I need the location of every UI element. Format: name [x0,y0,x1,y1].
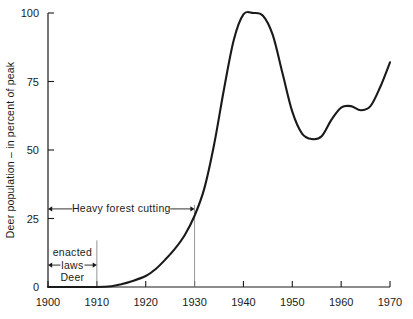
x-tick-label: 1910 [85,296,109,308]
deer-laws-label-line3: enacted [53,246,92,258]
y-tick-label: 75 [27,76,39,88]
deer-laws-label-line1: Deer [60,271,84,283]
y-tick-label: 25 [27,213,39,225]
x-tick-label: 1950 [280,296,304,308]
axes-group [48,13,390,287]
series-group [48,12,390,287]
x-axis-ticks: 19001910192019301940195019601970 [36,281,402,308]
guide-lines [97,205,195,287]
deer-population-curve [48,12,390,287]
x-tick-label: 1940 [231,296,255,308]
hfc-arrow-right [190,206,194,211]
heavy-forest-cutting-label: Heavy forest cutting [72,202,171,214]
y-tick-label: 0 [33,281,39,293]
hfc-arrow-left [48,206,52,211]
dle-arrow-left [48,262,52,267]
deer-population-chart: 0255075100 19001910192019301940195019601… [0,0,413,319]
x-tick-label: 1930 [182,296,206,308]
y-tick-label: 100 [21,7,39,19]
dle-arrow-right [93,262,97,267]
y-axis-ticks: 0255075100 [21,7,54,293]
chart-canvas: 0255075100 19001910192019301940195019601… [0,0,413,319]
x-tick-label: 1970 [378,296,402,308]
y-axis-title: Deer population – in percent of peak [4,61,16,238]
y-tick-label: 50 [27,144,39,156]
deer-laws-label-line2: laws [61,259,83,271]
x-tick-label: 1960 [329,296,353,308]
x-tick-label: 1900 [36,296,60,308]
annotations: Heavy forest cuttingDeerlawsenacted [48,202,195,283]
x-tick-label: 1920 [133,296,157,308]
